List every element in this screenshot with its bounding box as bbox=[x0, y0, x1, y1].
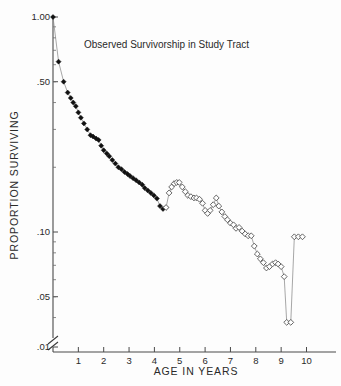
data-series-layer bbox=[51, 15, 306, 326]
y-axis-title: PROPORTION SURVIVING bbox=[8, 111, 20, 260]
x-axis-ticks: 12345678910 bbox=[76, 347, 312, 366]
y-tick-label: 1.00 bbox=[32, 11, 51, 22]
x-tick-label: 2 bbox=[101, 355, 106, 366]
axes bbox=[48, 17, 336, 352]
y-tick-label: .10 bbox=[37, 226, 50, 237]
data-point-marker bbox=[288, 319, 294, 325]
data-point-marker bbox=[68, 96, 73, 101]
data-point-marker bbox=[281, 274, 287, 280]
y-tick-label: .50 bbox=[37, 76, 50, 87]
x-tick-label: 3 bbox=[126, 355, 131, 366]
chart-title: Observed Survivorship in Study Tract bbox=[84, 39, 249, 50]
data-point-marker bbox=[61, 79, 66, 84]
data-point-marker bbox=[213, 195, 219, 201]
y-tick-label: .05 bbox=[37, 291, 50, 302]
series-line bbox=[166, 182, 302, 322]
x-tick-label: 8 bbox=[253, 355, 258, 366]
data-point-marker bbox=[219, 209, 225, 215]
x-tick-label: 9 bbox=[279, 355, 284, 366]
data-point-marker bbox=[216, 203, 222, 209]
data-point-marker bbox=[300, 234, 306, 240]
data-point-marker bbox=[254, 251, 260, 257]
data-point-marker bbox=[78, 115, 83, 120]
data-point-marker bbox=[51, 15, 56, 20]
x-tick-label: 10 bbox=[301, 355, 312, 366]
data-point-marker bbox=[166, 190, 172, 196]
x-tick-label: 1 bbox=[76, 355, 81, 366]
data-point-marker bbox=[99, 143, 104, 148]
data-point-marker bbox=[76, 110, 81, 115]
y-axis-ticks: 1.00.50.10.05.01 bbox=[32, 11, 59, 352]
data-point-marker bbox=[56, 59, 61, 64]
data-point-marker bbox=[65, 90, 70, 95]
data-point-marker bbox=[85, 127, 90, 132]
chart-canvas: 1.00.50.10.05.01 12345678910 Observed Su… bbox=[0, 0, 341, 386]
data-point-marker bbox=[210, 202, 216, 208]
series-1 bbox=[163, 180, 305, 326]
data-point-marker bbox=[81, 121, 86, 126]
y-tick-label: .01 bbox=[37, 341, 50, 352]
data-point-marker bbox=[251, 243, 257, 249]
survivorship-chart: 1.00.50.10.05.01 12345678910 Observed Su… bbox=[0, 0, 341, 386]
x-axis-title: AGE IN YEARS bbox=[154, 365, 239, 377]
